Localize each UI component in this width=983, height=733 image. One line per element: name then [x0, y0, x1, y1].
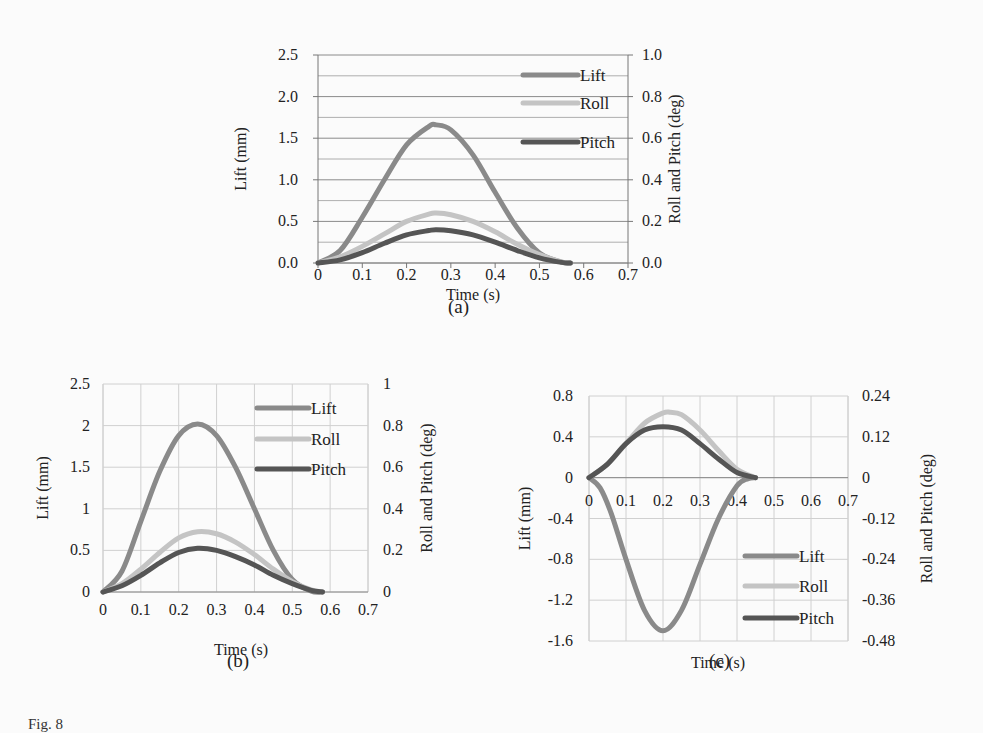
y2-tick-label: 0.6	[642, 129, 662, 146]
legend-item-pitch: Pitch	[257, 460, 346, 479]
x-tick-label: 0.1	[616, 492, 636, 509]
x-tick-label: 0.3	[441, 266, 461, 283]
legend-item-lift: Lift	[257, 399, 337, 418]
panel-label-b: (b)	[227, 650, 249, 672]
y2-tick-label: 0.6	[383, 458, 403, 475]
chart-panel-a: 00.10.20.30.40.50.60.70.00.51.01.52.02.5…	[232, 46, 684, 304]
y-tick-label: 1.5	[70, 458, 90, 475]
y2-tick-label: 0.12	[862, 428, 890, 445]
y-tick-label: 0.4	[553, 428, 573, 445]
y-tick-label: -0.4	[548, 510, 573, 527]
legend-item-pitch: Pitch	[523, 133, 615, 152]
legend-label: Roll	[580, 94, 610, 113]
legend-label: Lift	[580, 66, 606, 85]
legend-item-lift: Lift	[523, 66, 606, 85]
x-tick-label: 0	[99, 601, 107, 618]
y-axis-label: Lift (mm)	[516, 487, 534, 551]
chart-panel-b: 00.10.20.30.40.50.60.700.511.522.500.20.…	[34, 375, 436, 659]
y-tick-label: 0.5	[278, 212, 298, 229]
x-tick-label: 0.5	[529, 266, 549, 283]
x-tick-label: 0.7	[358, 601, 378, 618]
x-tick-label: 0.6	[320, 601, 340, 618]
y-tick-label: -1.6	[548, 632, 573, 649]
y2-tick-label: 0.4	[383, 500, 403, 517]
y-tick-label: 0.8	[553, 387, 573, 404]
y2-tick-label: -0.12	[862, 510, 895, 527]
y2-tick-label: -0.48	[862, 632, 895, 649]
x-tick-label: 0.3	[207, 601, 227, 618]
y-tick-label: 0.0	[278, 254, 298, 271]
series-line-pitch	[589, 427, 756, 478]
legend-item-roll: Roll	[745, 577, 829, 596]
x-tick-label: 0.2	[397, 266, 417, 283]
y-axis-label: Lift (mm)	[34, 456, 52, 520]
x-tick-label: 0.3	[690, 492, 710, 509]
y-tick-label: 2	[82, 417, 90, 434]
y2-tick-label: -0.24	[862, 550, 895, 567]
x-tick-label: 0.6	[801, 492, 821, 509]
x-tick-label: 0.1	[352, 266, 372, 283]
legend-item-lift: Lift	[745, 547, 825, 566]
x-tick-label: 0.2	[653, 492, 673, 509]
y2-tick-label: 1	[383, 375, 391, 392]
y2-tick-label: -0.36	[862, 591, 895, 608]
panel-label-a: (a)	[448, 296, 469, 318]
x-tick-label: 0	[585, 492, 593, 509]
y-tick-label: 1.0	[278, 171, 298, 188]
y2-tick-label: 0.4	[642, 171, 662, 188]
x-tick-label: 0	[314, 266, 322, 283]
chart-panel-c: 00.10.20.30.40.50.60.7-1.6-1.2-0.8-0.400…	[516, 387, 936, 672]
legend-item-pitch: Pitch	[745, 609, 834, 628]
y2-tick-label: 0.24	[862, 387, 890, 404]
y-tick-label: 1	[82, 500, 90, 517]
legend-label: Roll	[799, 577, 829, 596]
legend-label: Pitch	[311, 460, 346, 479]
x-tick-label: 0.6	[574, 266, 594, 283]
x-tick-label: 0.4	[244, 601, 264, 618]
y-tick-label: -0.8	[548, 550, 573, 567]
panel-label-c: (c)	[709, 650, 730, 672]
series-line-lift	[103, 424, 323, 592]
legend-label: Lift	[799, 547, 825, 566]
x-tick-label: 0.5	[282, 601, 302, 618]
figure-caption: Fig. 8	[28, 716, 63, 733]
y2-axis-label: Roll and Pitch (deg)	[918, 454, 936, 583]
y2-tick-label: 1.0	[642, 46, 662, 63]
y-tick-label: 2.5	[278, 46, 298, 63]
y-tick-label: 2.5	[70, 375, 90, 392]
legend-item-roll: Roll	[257, 430, 341, 449]
y2-tick-label: 0	[383, 583, 391, 600]
y-tick-label: 2.0	[278, 88, 298, 105]
legend-label: Pitch	[799, 609, 834, 628]
figure-canvas: 00.10.20.30.40.50.60.70.00.51.01.52.02.5…	[0, 0, 983, 733]
x-tick-label: 0.5	[764, 492, 784, 509]
y-tick-label: 0	[82, 583, 90, 600]
legend-label: Roll	[311, 430, 341, 449]
y-tick-label: 0.5	[70, 541, 90, 558]
y-tick-label: -1.2	[548, 591, 573, 608]
y2-tick-label: 0.8	[642, 88, 662, 105]
y-tick-label: 0	[565, 469, 573, 486]
x-tick-label: 0.7	[618, 266, 638, 283]
y2-tick-label: 0.2	[642, 212, 662, 229]
legend-label: Pitch	[580, 133, 615, 152]
y2-tick-label: 0.0	[642, 254, 662, 271]
x-tick-label: 0.1	[131, 601, 151, 618]
x-tick-label: 0.2	[169, 601, 189, 618]
y2-tick-label: 0	[862, 469, 870, 486]
legend-label: Lift	[311, 399, 337, 418]
y2-axis-label: Roll and Pitch (deg)	[666, 94, 684, 223]
x-tick-label: 0.4	[485, 266, 505, 283]
y2-tick-label: 0.8	[383, 417, 403, 434]
y2-tick-label: 0.2	[383, 541, 403, 558]
y-axis-label: Lift (mm)	[232, 127, 250, 191]
x-tick-label: 0.7	[838, 492, 858, 509]
y2-axis-label: Roll and Pitch (deg)	[418, 423, 436, 552]
y-tick-label: 1.5	[278, 129, 298, 146]
